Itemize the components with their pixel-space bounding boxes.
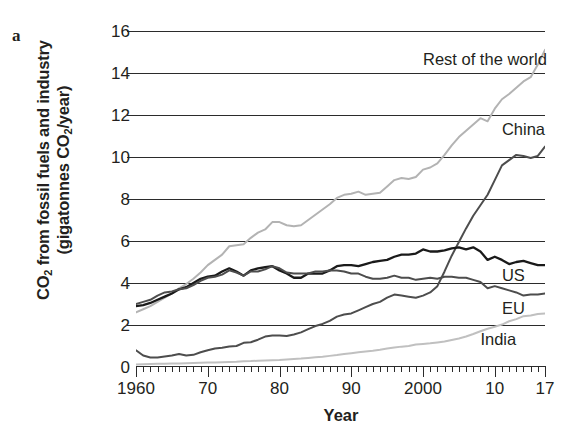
x-tick-label-90: 90 (342, 380, 361, 397)
x-minor-tick-1982 (294, 366, 295, 372)
x-axis-line (136, 366, 545, 367)
x-minor-tick-1971 (215, 366, 216, 372)
series-line-rest-of-the-world (136, 50, 545, 313)
x-minor-tick-1989 (344, 366, 345, 372)
y-axis-label-line2: (gigatonnes CO2/year) (54, 86, 72, 255)
series-label-eu: EU (502, 300, 525, 317)
x-axis-label: Year (136, 406, 546, 425)
x-tick-label-70: 70 (198, 380, 217, 397)
x-minor-tick-2002 (437, 366, 438, 372)
x-minor-tick-2007 (473, 366, 474, 372)
x-minor-tick-2015 (531, 366, 532, 372)
series-label-us: US (502, 267, 525, 284)
y-axis-label: CO2 from fossil fuels and industry (giga… (33, 5, 73, 335)
x-major-tick-1960 (136, 366, 137, 377)
x-minor-tick-1969 (201, 366, 202, 372)
x-minor-tick-1978 (265, 366, 266, 372)
y-tick-label-2: 2 (96, 317, 130, 334)
x-minor-tick-2012 (509, 366, 510, 372)
x-minor-tick-1977 (258, 366, 259, 372)
figure-panel-a: a CO2 from fossil fuels and industry (gi… (0, 0, 574, 441)
x-minor-tick-2003 (445, 366, 446, 372)
x-tick-label-80: 80 (270, 380, 289, 397)
y-tick-label-8: 8 (96, 191, 130, 208)
x-minor-tick-2004 (452, 366, 453, 372)
x-minor-tick-1999 (416, 366, 417, 372)
x-tick-label-10: 10 (485, 380, 504, 397)
x-minor-tick-2006 (466, 366, 467, 372)
y-tick-label-4: 4 (96, 275, 130, 292)
x-minor-tick-2016 (538, 366, 539, 372)
x-minor-tick-2013 (516, 366, 517, 372)
x-minor-tick-2014 (523, 366, 524, 372)
x-minor-tick-1964 (165, 366, 166, 372)
y-axis-tick-labels: 0246810121416 (96, 0, 130, 441)
x-minor-tick-1975 (244, 366, 245, 372)
x-minor-tick-2009 (488, 366, 489, 372)
x-minor-tick-1995 (387, 366, 388, 372)
x-tick-label-17: 17 (536, 380, 555, 397)
x-minor-tick-1997 (401, 366, 402, 372)
x-major-tick-1970 (208, 366, 209, 377)
x-minor-tick-1979 (272, 366, 273, 372)
x-minor-tick-1976 (251, 366, 252, 372)
x-minor-tick-1966 (179, 366, 180, 372)
x-minor-tick-1987 (330, 366, 331, 372)
x-minor-tick-1993 (373, 366, 374, 372)
x-minor-tick-1981 (287, 366, 288, 372)
y-tick-label-16: 16 (96, 23, 130, 40)
x-minor-tick-1968 (193, 366, 194, 372)
x-minor-tick-2005 (459, 366, 460, 372)
y-tick-label-0: 0 (96, 359, 130, 376)
x-minor-tick-1962 (150, 366, 151, 372)
series-lines (136, 31, 545, 367)
series-line-china (136, 147, 545, 358)
y-tick-label-12: 12 (96, 107, 130, 124)
y-tick-label-10: 10 (96, 149, 130, 166)
x-minor-tick-2001 (430, 366, 431, 372)
panel-label: a (12, 27, 21, 44)
y-tick-label-6: 6 (96, 233, 130, 250)
series-label-india: India (480, 331, 516, 348)
x-minor-tick-1991 (358, 366, 359, 372)
x-major-tick-2010 (495, 366, 496, 377)
x-tick-label-2000: 2000 (404, 380, 442, 397)
x-major-tick-1990 (351, 366, 352, 377)
x-major-tick-1980 (280, 366, 281, 377)
y-tick-label-14: 14 (96, 65, 130, 82)
x-minor-tick-1965 (172, 366, 173, 372)
series-label-rest-of-the-world: Rest of the world (423, 51, 547, 68)
series-line-eu (136, 266, 545, 304)
x-minor-tick-1986 (323, 366, 324, 372)
y-axis-label-line1: CO2 from fossil fuels and industry (34, 40, 52, 300)
x-minor-tick-1996 (394, 366, 395, 372)
x-minor-tick-1994 (380, 366, 381, 372)
x-minor-tick-1973 (229, 366, 230, 372)
x-minor-tick-1992 (366, 366, 367, 372)
x-major-tick-2000 (423, 366, 424, 377)
x-minor-tick-1985 (315, 366, 316, 372)
x-major-tick-2017 (545, 366, 546, 377)
x-minor-tick-1998 (409, 366, 410, 372)
x-minor-tick-1972 (222, 366, 223, 372)
x-minor-tick-1988 (337, 366, 338, 372)
x-minor-tick-1963 (158, 366, 159, 372)
series-line-us (136, 247, 545, 306)
series-label-china: China (502, 121, 545, 138)
x-minor-tick-1961 (143, 366, 144, 372)
x-minor-tick-1967 (186, 366, 187, 372)
x-minor-tick-1983 (301, 366, 302, 372)
x-tick-label-1960: 1960 (117, 380, 155, 397)
x-minor-tick-1974 (236, 366, 237, 372)
x-minor-tick-2008 (480, 366, 481, 372)
x-minor-tick-1984 (308, 366, 309, 372)
x-minor-tick-2011 (502, 366, 503, 372)
